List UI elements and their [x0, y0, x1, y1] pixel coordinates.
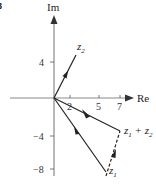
x-tick-7: 7 — [117, 101, 122, 112]
z1-plus-z2-arrow-icon — [82, 109, 90, 119]
imaginary-axis: Im — [47, 1, 60, 176]
vector-z2: z2 — [54, 40, 85, 98]
real-axis-label: Re — [137, 92, 149, 104]
y-tick-neg4: −4 — [33, 131, 44, 142]
z1-arrow-icon — [74, 126, 80, 135]
imaginary-axis-arrow-icon — [51, 15, 58, 24]
z2-arrow-icon — [63, 71, 69, 79]
real-axis-arrow-icon — [125, 95, 134, 102]
y-tick-neg8: −8 — [33, 164, 44, 175]
y-tick-4: 4 — [39, 57, 44, 68]
figure-corner-label: 8 — [0, 1, 2, 11]
imaginary-axis-label: Im — [47, 1, 60, 13]
y-ticks: 4 −4 −8 — [33, 57, 54, 175]
x-tick-5: 5 — [96, 101, 101, 112]
real-axis: Re — [10, 92, 149, 104]
z2-label: z2 — [76, 40, 85, 55]
complex-plane-diagram: 8 Re Im 2 5 7 4 −4 −8 z2 — [0, 0, 156, 184]
vector-z1: z1 — [54, 98, 117, 179]
z1-plus-z2-label: z1 + z2 — [123, 124, 153, 139]
